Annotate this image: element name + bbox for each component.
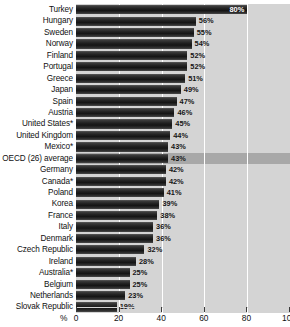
bar-value-label: 43% <box>168 153 186 164</box>
category-label: Spain <box>0 96 76 107</box>
bar-value-label: 51% <box>185 73 203 84</box>
plot-cell: 32% <box>76 244 290 255</box>
plot-cell: 47% <box>76 96 290 107</box>
plot-cell: 52% <box>76 61 290 72</box>
chart-row: Netherlands23% <box>0 290 290 301</box>
bar <box>76 51 187 60</box>
gridline <box>204 153 205 164</box>
gridline <box>204 198 205 209</box>
bar-value-label: 23% <box>125 290 143 301</box>
category-label: Portugal <box>0 61 76 72</box>
gridline <box>247 73 248 84</box>
gridline <box>204 210 205 221</box>
bar <box>76 131 170 140</box>
bar-value-label: 80% <box>229 4 247 15</box>
gridline <box>204 267 205 278</box>
bar-value-label: 52% <box>187 50 205 61</box>
percent-axis-label: % <box>60 313 67 323</box>
plot-cell: 25% <box>76 279 290 290</box>
chart-row: Germany42% <box>0 164 290 175</box>
bar-value-label: 54% <box>192 38 210 49</box>
gridline <box>204 141 205 152</box>
category-label: OECD (26) average <box>0 153 76 164</box>
bar <box>76 222 153 231</box>
bar-value-label: 28% <box>136 256 154 267</box>
gridline <box>247 164 248 175</box>
plot-cell: 36% <box>76 233 290 244</box>
x-tick <box>161 307 162 312</box>
category-label: Sweden <box>0 27 76 38</box>
bar-value-label: 56% <box>196 15 214 26</box>
gridline <box>204 130 205 141</box>
bar-value-label: 39% <box>159 198 177 209</box>
chart-row: Canada*42% <box>0 176 290 187</box>
gridline <box>247 141 248 152</box>
bar <box>76 62 187 71</box>
x-axis-line <box>76 307 290 308</box>
gridline <box>204 176 205 187</box>
bar <box>76 97 177 106</box>
x-tick-label: 100 <box>282 313 290 323</box>
bar <box>76 234 153 243</box>
plot-cell: 41% <box>76 187 290 198</box>
gridline <box>247 61 248 72</box>
bar-value-label: 36% <box>153 221 171 232</box>
bar-value-label: 25% <box>130 279 148 290</box>
chart-row: OECD (26) average43% <box>0 153 290 164</box>
horizontal-bar-chart: Turkey80%Hungary56%Sweden55%Norway54%Fin… <box>0 0 290 327</box>
bar <box>76 200 159 209</box>
gridline <box>204 118 205 129</box>
gridline <box>204 187 205 198</box>
gridline <box>247 256 248 267</box>
gridline <box>204 244 205 255</box>
gridline <box>204 84 205 95</box>
gridline <box>247 96 248 107</box>
x-tick <box>76 307 77 312</box>
bar <box>76 188 164 197</box>
bar <box>76 17 196 26</box>
plot-cell: 23% <box>76 290 290 301</box>
chart-row: Japan49% <box>0 84 290 95</box>
gridline <box>204 164 205 175</box>
gridline <box>247 130 248 141</box>
gridline <box>247 176 248 187</box>
chart-row: France38% <box>0 210 290 221</box>
category-label: France <box>0 210 76 221</box>
plot-cell: 52% <box>76 50 290 61</box>
bar-value-label: 42% <box>166 176 184 187</box>
plot-cell: 43% <box>76 153 290 164</box>
gridline <box>247 4 248 15</box>
gridline <box>247 50 248 61</box>
gridline <box>204 73 205 84</box>
plot-cell: 38% <box>76 210 290 221</box>
bar <box>76 268 130 277</box>
plot-cell: 36% <box>76 221 290 232</box>
category-label: Greece <box>0 73 76 84</box>
chart-row: Turkey80% <box>0 4 290 15</box>
chart-row: Italy36% <box>0 221 290 232</box>
category-label: Hungary <box>0 15 76 26</box>
chart-row: United Kingdom44% <box>0 130 290 141</box>
bar-value-label: 44% <box>170 130 188 141</box>
gridline <box>247 210 248 221</box>
category-label: Canada* <box>0 176 76 187</box>
chart-row: Denmark36% <box>0 233 290 244</box>
bar <box>76 5 247 14</box>
chart-row: Finland52% <box>0 50 290 61</box>
bar-value-label: 42% <box>166 164 184 175</box>
plot-cell: 44% <box>76 130 290 141</box>
gridline <box>162 267 163 278</box>
gridline <box>204 96 205 107</box>
bar <box>76 108 174 117</box>
plot-cell: 42% <box>76 176 290 187</box>
plot-cell: 45% <box>76 118 290 129</box>
bar <box>76 165 166 174</box>
chart-row: Sweden55% <box>0 27 290 38</box>
gridline <box>247 221 248 232</box>
gridline <box>247 153 248 164</box>
x-tick <box>204 307 205 312</box>
category-label: Norway <box>0 38 76 49</box>
bar <box>76 28 194 37</box>
chart-row: Poland41% <box>0 187 290 198</box>
plot-cell: 49% <box>76 84 290 95</box>
